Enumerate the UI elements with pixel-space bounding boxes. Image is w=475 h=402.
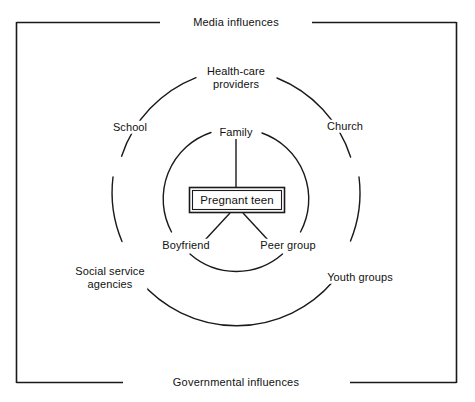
connector-boyfriend bbox=[205, 213, 230, 240]
inner-ring-label-peer-group: Peer group bbox=[257, 239, 318, 252]
connector-peer-group bbox=[243, 213, 268, 240]
core-label-pregnant-teen: Pregnant teen bbox=[200, 194, 274, 207]
outer-ring-label-health-care-providers: Health-care providers bbox=[204, 65, 268, 90]
outer-arc-right bbox=[351, 177, 360, 241]
inner-arc-right bbox=[262, 133, 309, 232]
outer-ring-label-youth-groups: Youth groups bbox=[324, 271, 396, 284]
outer-arc-bottom bbox=[140, 281, 333, 326]
frame-top-label: Media influences bbox=[186, 16, 286, 29]
outer-arc-top-right bbox=[277, 78, 351, 157]
inner-arc-left bbox=[163, 133, 211, 233]
outer-arc-top-left bbox=[122, 78, 196, 157]
frame-bottom-label: Governmental influences bbox=[166, 376, 306, 389]
inner-ring-label-boyfriend: Boyfriend bbox=[159, 239, 212, 252]
outer-ring-label-church: Church bbox=[324, 120, 366, 133]
outer-ring-label-school: School bbox=[110, 121, 150, 134]
outer-arc-left bbox=[112, 177, 122, 242]
influence-diagram: Media influences Governmental influences… bbox=[0, 0, 475, 402]
inner-ring-label-family: Family bbox=[217, 126, 256, 139]
inner-arc-bottom bbox=[190, 254, 283, 271]
outer-ring-label-social-service-agencies: Social service agencies bbox=[72, 265, 147, 290]
